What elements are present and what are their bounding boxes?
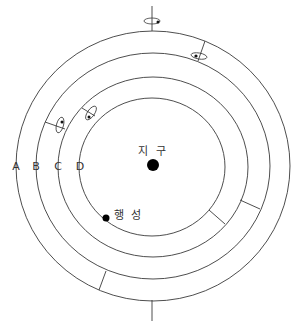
spoke-a-b-top [198, 41, 205, 61]
planet-dot [103, 215, 110, 222]
rotation-icon-b-c [55, 116, 66, 133]
spoke-b-a-bottom [99, 271, 106, 290]
earth-label: 지 구 [138, 145, 168, 158]
nested-spheres-diagram: 지 구 행 성 A B C D [0, 0, 300, 332]
sphere-label-d: D [76, 160, 84, 173]
spoke-c-d-left [82, 108, 95, 116]
spoke-c-b-right [240, 200, 260, 209]
rotation-icon-a-b [191, 52, 208, 61]
sphere-label-a: A [12, 160, 20, 173]
sphere-label-b: B [32, 160, 40, 173]
earth-dot [147, 159, 159, 171]
planet-label: 행 성 [114, 209, 144, 222]
sphere-label-c: C [54, 160, 62, 173]
rotation-icon-c-d [84, 104, 99, 121]
spoke-d-c-right [209, 210, 225, 224]
